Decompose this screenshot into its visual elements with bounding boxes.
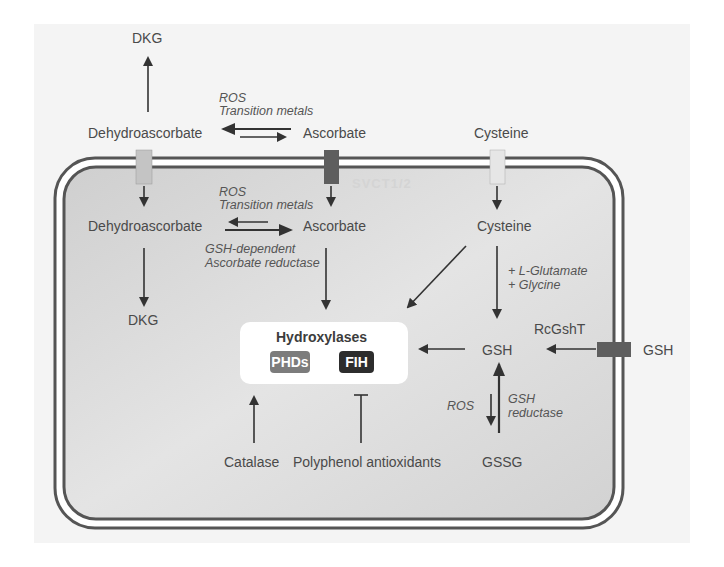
gsh-reductase-label-1: GSH — [508, 392, 535, 406]
phds-badge: PHDs — [270, 351, 310, 373]
hydroxylases-title: Hydroxylases — [276, 329, 367, 345]
svct-transporter — [324, 150, 339, 184]
extracellular-ros-label: ROS — [219, 91, 246, 105]
gsh-reductase-label-2: reductase — [508, 406, 563, 420]
cysteine-transporter — [490, 150, 505, 184]
rcgsht-transporter — [597, 342, 631, 357]
extracellular-dehydroascorbate: Dehydroascorbate — [88, 125, 202, 141]
dha-transporter — [136, 150, 152, 184]
intracellular-dkg: DKG — [128, 312, 158, 328]
intracellular-ros-label: ROS — [219, 185, 246, 199]
polyphenol-antioxidants-label: Polyphenol antioxidants — [293, 454, 441, 470]
extracellular-ascorbate: Ascorbate — [303, 125, 366, 141]
rcgsht-label: RcGshT — [534, 321, 585, 337]
intracellular-ascorbate: Ascorbate — [303, 218, 366, 234]
gssg-label: GSSG — [482, 454, 522, 470]
glycine-label: + Glycine — [508, 278, 560, 292]
svct-label: SVCT1/2 — [352, 176, 412, 191]
extracellular-cysteine: Cysteine — [474, 125, 528, 141]
intracellular-cysteine: Cysteine — [477, 218, 531, 234]
catalase-label: Catalase — [224, 454, 279, 470]
intracellular-transition-metals-label: Transition metals — [219, 198, 313, 212]
extracellular-gsh: GSH — [643, 342, 673, 358]
pathway-diagram — [0, 0, 724, 567]
intracellular-gsh: GSH — [482, 342, 512, 358]
intracellular-dehydroascorbate: Dehydroascorbate — [88, 218, 202, 234]
extracellular-transition-metals-label: Transition metals — [219, 104, 313, 118]
l-glutamate-label: + L-Glutamate — [508, 264, 588, 278]
fih-badge: FIH — [339, 351, 374, 373]
ascorbate-reductase-label: Ascorbate reductase — [205, 256, 320, 270]
ros-label: ROS — [447, 399, 474, 413]
gsh-dependent-label: GSH-dependent — [205, 242, 295, 256]
extracellular-dkg: DKG — [132, 30, 162, 46]
